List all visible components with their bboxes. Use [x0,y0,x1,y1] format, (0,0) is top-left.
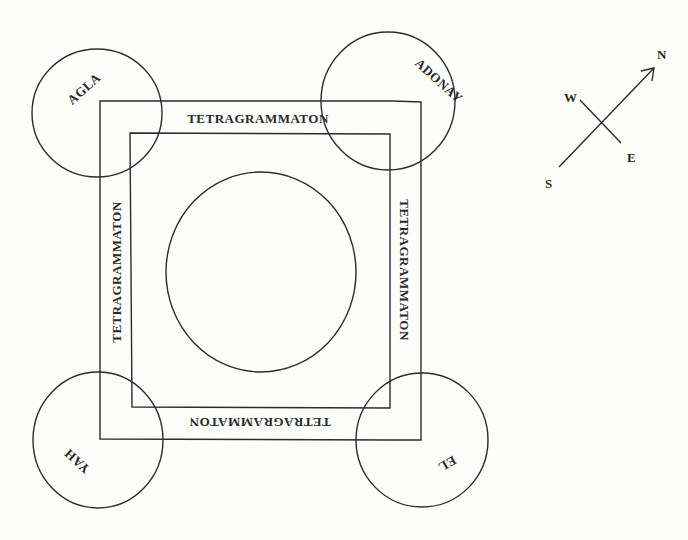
compass-label-south: S [545,176,553,191]
label-side-left: TETRAGRAMMATON [109,201,124,343]
label-side-right: TETRAGRAMMATON [397,199,412,341]
compass-label-west: W [564,90,578,105]
label-adonay: ADONAY [412,55,466,106]
compass-label-north: N [657,47,667,62]
compass-west-east-line [580,100,621,143]
compass: N S W E [545,47,667,191]
corner-circle-yah [33,372,163,508]
compass-label-east: E [627,150,636,165]
label-el: EL [436,453,459,475]
corner-circle-agla [32,49,162,177]
compass-north-south-line [559,68,654,167]
label-agla: AGLA [64,70,104,108]
label-side-top: TETRAGRAMMATON [187,111,329,126]
label-yah: YAH [61,446,93,477]
center-circle [166,172,356,372]
label-side-bottom: TETRAGRAMMATON [189,415,331,430]
inner-square [130,133,390,408]
magic-circle-diagram: AGLA ADONAY YAH EL TETRAGRAMMATON TETRAG… [0,0,688,540]
